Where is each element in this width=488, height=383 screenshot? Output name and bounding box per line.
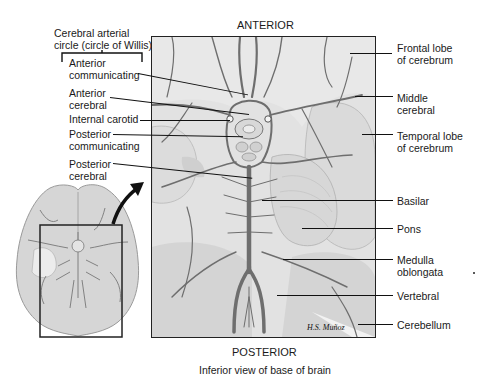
leader-basilar xyxy=(262,200,393,201)
label-medulla-oblongata: Medulla oblongata xyxy=(397,254,443,278)
label-middle-cerebral: Middle cerebral xyxy=(397,92,435,116)
label-pons: Pons xyxy=(397,223,421,235)
leader-frontal-lobe xyxy=(350,53,392,54)
anterior-label: ANTERIOR xyxy=(237,19,294,31)
circle-of-willis-heading: Cerebral arterial circle (circle of Will… xyxy=(54,27,152,51)
label-cerebellum: Cerebellum xyxy=(397,319,451,331)
leader-internal-carotid xyxy=(140,120,230,121)
label-posterior-cerebral: Posterior cerebral xyxy=(69,158,111,182)
leader-pons xyxy=(302,228,393,229)
label-frontal-lobe: Frontal lobe of cerebrum xyxy=(397,42,453,66)
stray-dot xyxy=(473,272,475,274)
leader-temporal-lobe xyxy=(362,134,393,135)
leader-vertebral xyxy=(277,295,393,296)
label-internal-carotid: Internal carotid xyxy=(69,113,138,125)
leader-cerebellum xyxy=(358,324,393,325)
leader-medulla xyxy=(283,259,393,260)
leader-middle-cerebral xyxy=(355,96,393,97)
label-anterior-communicating: Anterior communicating xyxy=(69,57,140,81)
posterior-label: POSTERIOR xyxy=(232,346,297,358)
circle-of-willis-line1: Cerebral arterial xyxy=(54,27,152,39)
label-temporal-lobe: Temporal lobe of cerebrum xyxy=(397,130,463,154)
zoom-arrow-icon xyxy=(108,178,148,228)
label-basilar: Basilar xyxy=(397,195,429,207)
label-anterior-cerebral: Anterior cerebral xyxy=(69,87,107,111)
figure-caption: Inferior view of base of brain xyxy=(199,364,331,376)
label-vertebral: Vertebral xyxy=(397,290,439,302)
label-posterior-communicating: Posterior communicating xyxy=(69,128,140,152)
